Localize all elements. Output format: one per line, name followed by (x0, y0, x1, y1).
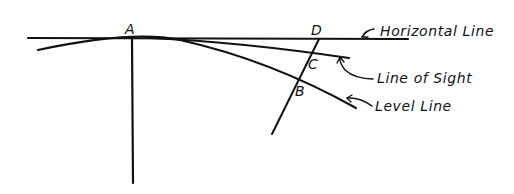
horizontal-line (28, 38, 408, 39)
point-label-b: B (295, 83, 305, 99)
label-level-line: Level Line (375, 98, 452, 114)
point-label-a: A (124, 21, 135, 37)
curvature-refraction-diagram: A D C B Horizontal Line Line of Sight Le… (0, 0, 514, 194)
point-label-c: C (308, 56, 318, 72)
line-of-sight-leader (340, 57, 373, 79)
level-line (38, 37, 356, 108)
label-horizontal-line: Horizontal Line (380, 23, 494, 39)
label-line-of-sight: Line of Sight (377, 70, 472, 86)
point-label-d: D (311, 22, 322, 38)
vertical-line-a (132, 39, 133, 183)
horizontal-line-leader (362, 29, 374, 37)
